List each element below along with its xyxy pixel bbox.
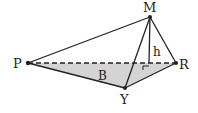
vertex-p-dot (26, 61, 30, 65)
label-base-b: B (98, 69, 107, 83)
label-p: P (13, 56, 22, 71)
pyramid-diagram: M P R Y h B (0, 0, 198, 113)
edge-m-p (28, 17, 150, 63)
label-r: R (179, 57, 190, 72)
altitude-h (149, 17, 150, 63)
label-m: M (143, 0, 156, 15)
vertex-y-dot (123, 86, 127, 90)
label-y: Y (119, 92, 129, 107)
vertex-m-dot (148, 15, 152, 19)
vertex-r-dot (174, 61, 178, 65)
label-height-h: h (153, 45, 161, 59)
